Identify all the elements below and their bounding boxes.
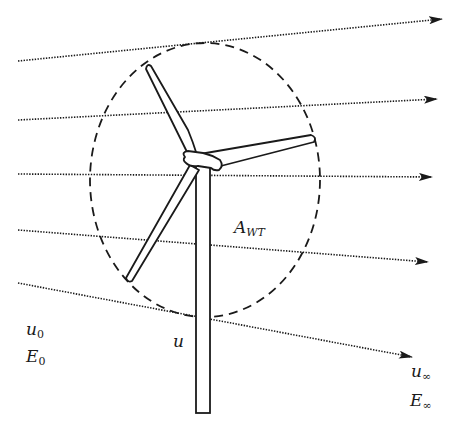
label-upstream-velocity-sub: 0 [37, 328, 44, 341]
label-upstream-velocity-main: u [26, 319, 37, 339]
label-rotor-area-main: A [234, 217, 246, 237]
streamline-4 [18, 230, 428, 262]
label-downstream-energy-sub: ∞ [422, 399, 431, 412]
label-rotor-velocity: u [173, 333, 184, 350]
diagram-canvas [0, 0, 450, 430]
blade-lower-left [126, 165, 199, 282]
label-upstream-velocity: u0 [26, 321, 44, 340]
streamline-5 [18, 283, 412, 357]
label-upstream-energy-sub: 0 [38, 355, 45, 368]
label-downstream-velocity: u∞ [411, 363, 431, 382]
label-downstream-energy: E∞ [410, 392, 432, 411]
turbine-tower [196, 166, 210, 413]
turbine-rotor [126, 65, 315, 282]
label-rotor-area-sub: WT [246, 226, 265, 239]
label-upstream-energy-main: E [26, 346, 38, 366]
blade-top [146, 65, 197, 156]
label-rotor-velocity-main: u [173, 331, 184, 351]
streamline-1 [18, 19, 442, 61]
label-downstream-energy-main: E [410, 390, 422, 410]
streamline-2 [18, 99, 437, 120]
label-rotor-area: AWT [234, 219, 265, 238]
label-upstream-energy: E0 [26, 348, 45, 367]
label-downstream-velocity-sub: ∞ [422, 370, 431, 383]
streamlines [18, 19, 442, 357]
label-downstream-velocity-main: u [411, 361, 422, 381]
streamline-3 [18, 174, 432, 177]
